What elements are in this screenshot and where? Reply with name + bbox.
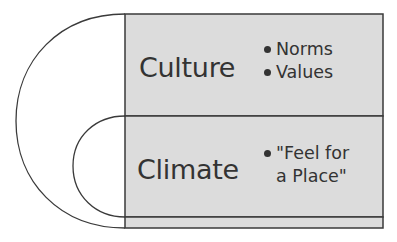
bullet-text: Values: [276, 61, 333, 84]
bullet-icon: [264, 46, 271, 53]
bullet-text: Norms: [276, 38, 333, 61]
bullet-icon: [264, 69, 271, 76]
climate-bullets: "Feel for a Place": [264, 142, 349, 188]
culture-bullets: Norms Values: [264, 38, 333, 84]
diagram-shapes: [0, 0, 397, 242]
outer-arc: [16, 14, 125, 228]
bullet-icon: [264, 150, 271, 157]
inner-arc: [73, 116, 125, 217]
bullet-item: Norms: [264, 38, 333, 61]
bullet-text: "Feel for: [276, 142, 349, 165]
climate-title: Climate: [137, 156, 239, 183]
bullet-item: Values: [264, 61, 333, 84]
bottom-strip: [125, 217, 383, 228]
bullet-item: "Feel for: [264, 142, 349, 165]
bullet-continuation: a Place": [264, 165, 349, 188]
culture-title: Culture: [139, 54, 235, 81]
